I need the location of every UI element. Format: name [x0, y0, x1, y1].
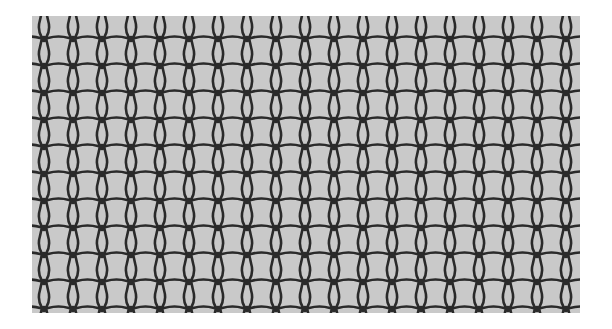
knitted-fabric-photo — [32, 16, 580, 313]
mesh-pattern — [32, 16, 580, 313]
